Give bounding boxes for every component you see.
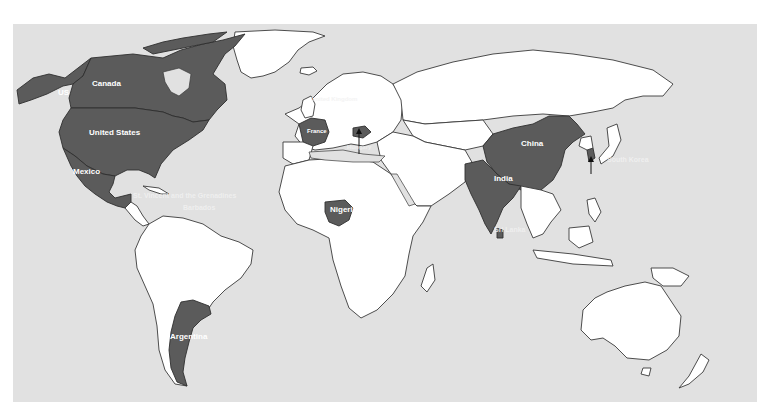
iceland (300, 67, 317, 75)
label-usa: United States (89, 129, 140, 137)
label-alaska: US (58, 89, 69, 97)
label-india: India (494, 175, 513, 183)
map-svg (13, 24, 757, 402)
tasmania (641, 368, 651, 376)
new-guinea (651, 268, 689, 286)
label-sri-lanka: Sri Lanka (494, 226, 526, 233)
borneo (569, 226, 593, 248)
label-barbados: Barbados (183, 204, 215, 211)
label-china: China (521, 140, 543, 148)
world-map: US Canada United States Mexico St. Vince… (13, 24, 757, 402)
label-france: France (307, 128, 327, 134)
russia (393, 50, 673, 124)
new-zealand (679, 354, 709, 388)
north-korea (579, 136, 593, 150)
central-america (125, 202, 149, 226)
label-nigeria: Nigeria (330, 206, 357, 214)
label-uk: United Kingdom (311, 96, 357, 102)
southeast-asia (521, 186, 561, 238)
label-south-korea: South Korea (607, 156, 649, 163)
label-st-vincent: St. Vincent and the Grenadines (133, 192, 236, 199)
label-canada: Canada (92, 80, 121, 88)
label-argentina: Argentina (170, 333, 207, 341)
label-hungary: Hungary (347, 144, 371, 150)
indonesia (533, 250, 613, 266)
madagascar (421, 264, 435, 292)
philippines (587, 198, 601, 222)
australia (581, 282, 681, 360)
label-mexico: Mexico (73, 168, 100, 176)
